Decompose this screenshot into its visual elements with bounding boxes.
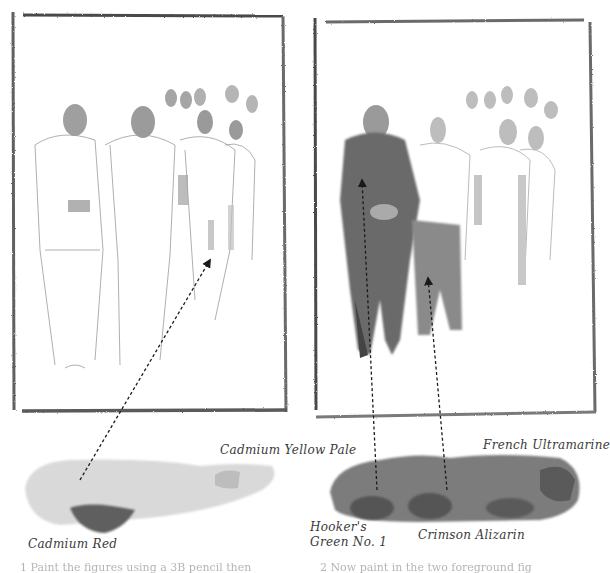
right-paint-swatch: [330, 455, 580, 522]
label-french-ultramarine: French Ultramarine: [483, 438, 610, 452]
label-cadmium-red: Cadmium Red: [28, 537, 117, 551]
caption-step-2: 2 Now paint in the two foreground fig: [320, 561, 532, 573]
label-cadmium-yellow-pale: Cadmium Yellow Pale: [220, 443, 356, 457]
label-hookers-green-line2: Green No. 1: [310, 535, 387, 549]
label-hookers-green-line1: Hooker's: [310, 520, 367, 534]
left-sketch-frame: [13, 12, 287, 412]
caption-step-1: 1 Paint the figures using a 3B pencil th…: [20, 561, 251, 573]
left-figures: [35, 85, 258, 368]
right-figures: [340, 86, 558, 358]
left-paint-swatch: [25, 460, 274, 533]
label-crimson-alizarin: Crimson Alizarin: [418, 528, 525, 542]
